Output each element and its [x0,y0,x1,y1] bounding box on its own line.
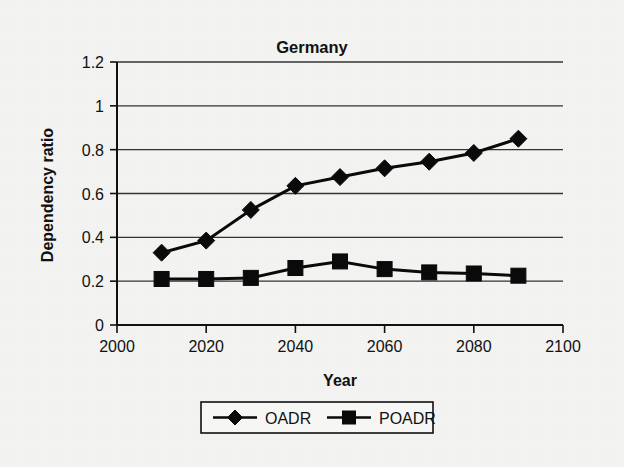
y-tick-label: 1 [95,98,104,115]
legend-marker-poadr [343,411,356,424]
data-point-oadr-2010 [153,244,170,261]
chart-legend: OADRPOADR [201,402,436,433]
legend-label-poadr: POADR [379,410,436,427]
y-tick-label: 0.6 [82,186,104,203]
data-point-poadr-2090 [511,268,526,283]
x-tick-label: 2060 [367,338,403,355]
chart-figure: 00.20.40.60.811.2 2000202020402060208021… [0,0,624,467]
y-tick-labels: 00.20.40.60.811.2 [82,54,104,334]
data-series [153,130,527,286]
x-tick-label: 2040 [278,338,314,355]
data-point-oadr-2080 [465,144,482,161]
data-point-poadr-2010 [154,271,169,286]
y-tick-label: 1.2 [82,54,104,71]
data-point-poadr-2070 [422,265,437,280]
data-point-oadr-2040 [287,177,304,194]
x-tick-labels: 200020202040206020802100 [99,338,581,355]
data-point-oadr-2060 [376,160,393,177]
data-point-poadr-2030 [243,270,258,285]
y-tick-label: 0.4 [82,229,104,246]
data-point-poadr-2040 [288,261,303,276]
x-tick-label: 2100 [545,338,581,355]
data-point-oadr-2070 [421,153,438,170]
data-point-oadr-2050 [332,169,349,186]
chart-title: Germany [276,38,348,56]
data-point-poadr-2050 [333,254,348,269]
x-tick-label: 2000 [99,338,135,355]
data-point-poadr-2060 [377,262,392,277]
axis-ticks [110,62,563,333]
series-line-oadr [162,139,519,253]
legend-entry-poadr[interactable]: POADR [327,410,436,427]
data-point-oadr-2090 [510,130,527,147]
x-tick-label: 2020 [188,338,224,355]
x-tick-label: 2080 [456,338,492,355]
data-point-poadr-2020 [199,271,214,286]
data-point-poadr-2080 [466,266,481,281]
y-tick-label: 0.2 [82,273,104,290]
x-axis-title: Year [323,372,357,389]
y-axis-title: Dependency ratio [39,128,56,262]
data-point-oadr-2030 [242,201,259,218]
line-chart: 00.20.40.60.811.2 2000202020402060208021… [0,0,624,467]
y-tick-label: 0.8 [82,142,104,159]
legend-label-oadr: OADR [265,410,311,427]
data-point-oadr-2020 [198,232,215,249]
y-tick-label: 0 [95,317,104,334]
